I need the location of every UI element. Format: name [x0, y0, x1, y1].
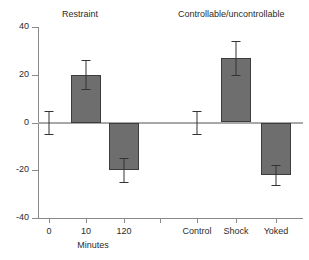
error-bar-cap-lower [45, 134, 54, 135]
x-tick-label: Shock [223, 226, 248, 236]
error-bar-stem [197, 111, 198, 135]
y-tick-label: 20 [2, 69, 29, 79]
y-tick-mark [32, 123, 38, 124]
error-bar-stem [86, 60, 87, 89]
error-bar-cap-lower [232, 75, 241, 76]
error-bar [80, 60, 92, 89]
error-bar-cap-lower [272, 185, 281, 186]
error-bar-cap-upper [232, 41, 241, 42]
error-bar-cap-upper [272, 165, 281, 166]
error-bar-cap-lower [120, 182, 129, 183]
chart-figure: Restraint Controllable/uncontrollable 40… [0, 0, 309, 260]
x-tick-label: 10 [81, 226, 91, 236]
error-bar [191, 111, 203, 135]
error-bar-stem [124, 158, 125, 182]
x-axis-title: Minutes [77, 240, 109, 250]
y-tick-label: -20 [2, 164, 29, 174]
y-tick-label: -40 [2, 212, 29, 222]
x-tick-mark [49, 218, 50, 223]
y-tick-mark [32, 170, 38, 171]
error-bar-stem [49, 111, 50, 135]
x-tick-label: 120 [116, 226, 131, 236]
x-tick-mark [124, 218, 125, 223]
error-bar-cap-lower [82, 89, 91, 90]
x-tick-label: 0 [46, 226, 51, 236]
x-tick-mark [86, 218, 87, 223]
y-tick-mark [32, 218, 38, 219]
error-bar-cap-lower [193, 134, 202, 135]
error-bar-cap-upper [193, 111, 202, 112]
x-tick-mark-separator [160, 218, 161, 223]
error-bar-stem [236, 41, 237, 74]
x-tick-mark [197, 218, 198, 223]
y-tick-mark [32, 27, 38, 28]
error-bar-cap-upper [45, 111, 54, 112]
error-bar-cap-upper [82, 60, 91, 61]
x-tick-label: Yoked [264, 226, 289, 236]
error-bar [43, 111, 55, 135]
y-tick-label: 0 [2, 117, 29, 127]
x-axis-line [38, 218, 303, 219]
group-title-controllable-uncontrollable: Controllable/uncontrollable [178, 9, 285, 19]
group-title-restraint: Restraint [62, 9, 98, 19]
error-bar-cap-upper [120, 158, 129, 159]
error-bar [230, 41, 242, 74]
error-bar-stem [276, 165, 277, 184]
error-bar [270, 165, 282, 184]
y-tick-label: 40 [2, 21, 29, 31]
x-tick-mark [276, 218, 277, 223]
error-bar [118, 158, 130, 182]
x-tick-mark [236, 218, 237, 223]
y-tick-mark [32, 75, 38, 76]
x-tick-label: Control [182, 226, 211, 236]
